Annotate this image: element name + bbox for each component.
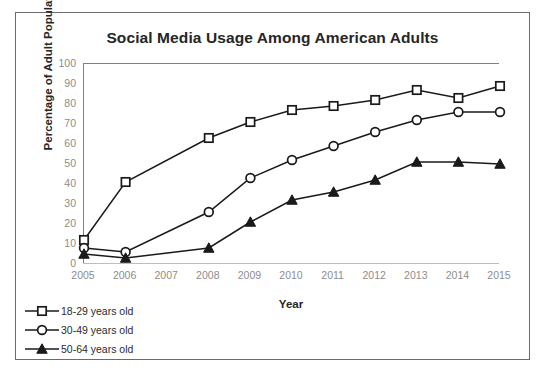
data-point-marker [288,156,297,165]
open-circle-icon [24,323,60,337]
data-point-marker [413,86,421,94]
x-tick-label: 2015 [477,269,521,281]
y-tick-label: 50 [36,157,76,169]
chart-legend: 18-29 years old30-49 years old50-64 year… [24,301,133,358]
x-tick-label: 2012 [352,269,396,281]
data-point-marker [288,106,296,114]
legend-item[interactable]: 30-49 years old [24,320,133,339]
x-axis-title: Year [83,298,499,310]
legend-item-label: 50-64 years old [61,343,133,355]
data-point-marker [245,217,255,226]
legend-item-label: 18-29 years old [61,305,133,317]
y-tick-label: 0 [36,257,76,269]
x-tick-label: 2009 [227,269,271,281]
x-tick-label: 2005 [61,269,105,281]
legend-item[interactable]: 50-64 years old [24,339,133,358]
data-point-marker [370,175,380,184]
data-point-marker [246,118,254,126]
data-point-marker [204,243,214,252]
data-point-marker [38,306,46,314]
data-point-marker [371,128,380,137]
data-point-marker [246,174,255,183]
x-tick-label: 2007 [144,269,188,281]
series-2 [80,108,505,257]
data-point-marker [329,102,337,110]
figure-frame: Social Media Usage Among American Adults… [15,12,530,360]
x-tick-label: 2013 [394,269,438,281]
data-point-marker [371,96,379,104]
x-tick-label: 2008 [186,269,230,281]
data-point-marker [412,116,421,125]
data-point-marker [496,108,505,117]
y-tick-label: 10 [36,237,76,249]
data-point-marker [454,108,463,117]
data-point-marker [329,142,338,151]
y-tick-label: 90 [36,77,76,89]
x-tick-label: 2010 [269,269,313,281]
legend-item-label: 30-49 years old [61,324,133,336]
data-point-marker [38,325,47,334]
series-line [84,112,500,252]
data-point-marker [454,94,462,102]
y-tick-label: 80 [36,97,76,109]
legend-marker [24,323,60,337]
legend-item[interactable]: 18-29 years old [24,301,133,320]
series-lines [84,64,500,264]
chart-title: Social Media Usage Among American Adults [16,29,529,47]
x-tick-label: 2011 [311,269,355,281]
open-square-icon [24,304,60,318]
legend-marker [24,342,60,356]
plot-area [83,63,499,263]
series-line [84,162,500,258]
legend-marker [24,304,60,318]
y-tick-label: 70 [36,117,76,129]
filled-triangle-icon [24,342,60,356]
data-point-marker [204,208,213,217]
y-tick-label: 40 [36,177,76,189]
data-point-marker [121,178,129,186]
data-point-marker [205,134,213,142]
y-tick-label: 60 [36,137,76,149]
y-tick-label: 30 [36,197,76,209]
x-tick-label: 2014 [435,269,479,281]
data-point-marker [496,82,504,90]
y-tick-label: 100 [36,57,76,69]
y-tick-label: 20 [36,217,76,229]
x-tick-label: 2006 [103,269,147,281]
